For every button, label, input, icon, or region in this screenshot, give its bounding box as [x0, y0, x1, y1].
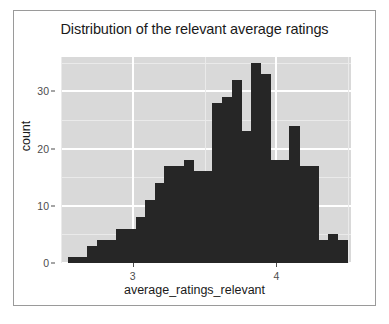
x-tick-mark: [133, 263, 134, 267]
y-axis-title: count: [19, 98, 33, 174]
histogram-bars: [61, 57, 351, 263]
x-axis-title: average_ratings_relevant: [14, 283, 375, 297]
x-tick-label: 3: [121, 270, 145, 282]
y-tick-mark: [51, 91, 55, 92]
y-tick-label: 0: [23, 257, 49, 269]
plot-panel: [61, 57, 351, 263]
y-tick-mark: [51, 263, 55, 264]
histogram-bar: [338, 240, 348, 263]
chart-figure: Distribution of the relevant average rat…: [14, 11, 375, 305]
x-tick-mark: [276, 263, 277, 267]
figure-card: Distribution of the relevant average rat…: [13, 10, 376, 306]
y-tick-mark: [51, 205, 55, 206]
y-tick-mark: [51, 148, 55, 149]
y-tick-label: 30: [23, 85, 49, 97]
y-tick-label: 10: [23, 200, 49, 212]
page-title: Distribution of the relevant average rat…: [14, 21, 375, 37]
x-axis: 34: [61, 263, 351, 285]
x-tick-label: 4: [264, 270, 288, 282]
